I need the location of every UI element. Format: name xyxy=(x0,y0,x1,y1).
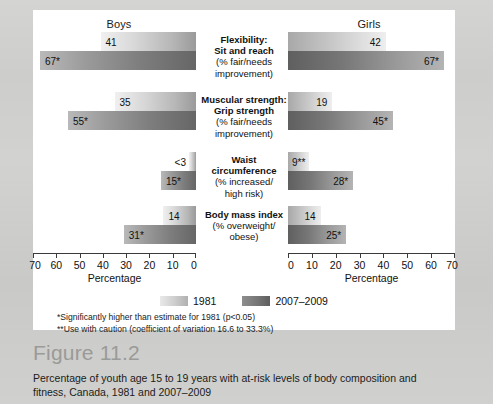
group-sub-line2: obese) xyxy=(201,231,287,242)
group-sub-line2: high risk) xyxy=(201,188,287,199)
column-header-girls: Girls xyxy=(283,18,455,30)
axis-tick-label: 40 xyxy=(97,259,109,271)
bars-boys-flexibility: 41 67* xyxy=(33,32,196,84)
axis-boys: 70 60 50 40 30 20 10 0 Percentage xyxy=(33,253,196,279)
bar-value: 42 xyxy=(370,36,381,47)
bar-girls-2007: 28* xyxy=(288,171,353,190)
group-title-line2: Sit and reach xyxy=(201,45,287,56)
axis-tick xyxy=(80,253,81,258)
bar-value: 28* xyxy=(333,175,348,186)
axis-tick xyxy=(407,253,408,258)
axis-tick-label: 0 xyxy=(288,259,294,271)
bar-girls-1981: 42 xyxy=(288,32,386,51)
figure-number: Figure 11.2 xyxy=(33,341,463,365)
axis-tick-label: 10 xyxy=(167,259,179,271)
axis-tick-label: 30 xyxy=(354,259,366,271)
bars-girls-grip: 19 45* xyxy=(288,92,455,144)
bar-girls-2007: 67* xyxy=(288,51,444,70)
group-sub-line1: (% fair/needs xyxy=(201,56,287,67)
group-sub-line2: improvement) xyxy=(201,128,287,139)
bar-girls-2007: 25* xyxy=(288,225,346,244)
bar-value: 67* xyxy=(45,55,60,66)
footnote-significance: *Significantly higher than estimate for … xyxy=(57,312,447,324)
bar-value: 14 xyxy=(304,210,315,221)
bars-boys-grip: 35 55* xyxy=(33,92,196,144)
bar-boys-1981: <3 xyxy=(189,152,196,171)
bar-value: 35 xyxy=(120,96,131,107)
axis-tick-label: 50 xyxy=(74,259,86,271)
bar-value: 55* xyxy=(73,115,88,126)
bar-girls-1981: 14 xyxy=(288,206,321,225)
axis-tick-label: 10 xyxy=(306,259,318,271)
axis-title-boys: Percentage xyxy=(33,272,196,284)
legend-label-1981: 1981 xyxy=(193,295,216,307)
axis-tick xyxy=(103,253,104,258)
legend-swatch-1981-icon xyxy=(160,296,188,306)
footnote-caution: **Use with caution (coefficient of varia… xyxy=(57,324,447,336)
group-sub-line2: improvement) xyxy=(201,68,287,79)
group-sub-line1: (% fair/needs xyxy=(201,116,287,127)
column-header-boys: Boys xyxy=(33,18,205,30)
axis-tick xyxy=(383,253,384,258)
bar-boys-1981: 14 xyxy=(163,206,196,225)
axis-tick xyxy=(56,253,57,258)
bar-value: 41 xyxy=(106,36,117,47)
bar-boys-2007: 15* xyxy=(161,171,196,190)
axis-tick-label: 40 xyxy=(378,259,390,271)
axis-cap-start xyxy=(33,253,34,258)
bars-girls-bmi: 14 25* xyxy=(288,206,455,250)
group-label-muscular-strength: Muscular strength: Grip strength (% fair… xyxy=(201,94,287,139)
axis-tick xyxy=(431,253,432,258)
bars-girls-flexibility: 42 67* xyxy=(288,32,455,84)
bar-value: 19 xyxy=(316,96,327,107)
group-sub-line1: (% overweight/ xyxy=(201,220,287,231)
bar-value: 9** xyxy=(292,156,305,167)
group-title-line1: Muscular strength: xyxy=(201,94,287,105)
bar-boys-1981: 35 xyxy=(115,92,197,111)
group-body-mass-index: 14 31* Body mass index (% overweight/ ob… xyxy=(33,206,455,250)
bar-value: 15* xyxy=(166,175,181,186)
bar-value: 31* xyxy=(129,229,144,240)
axis-line xyxy=(33,253,196,254)
group-title-line2: Grip strength xyxy=(201,105,287,116)
axis-tick-label: 50 xyxy=(401,259,413,271)
axis-cap-end xyxy=(454,253,455,258)
axis-tick-label: 70 xyxy=(29,259,41,271)
bars-boys-bmi: 14 31* xyxy=(33,206,196,250)
axis-cap-start xyxy=(288,253,289,258)
axis-tick-label: 30 xyxy=(120,259,132,271)
bar-boys-2007: 55* xyxy=(68,111,196,130)
group-title-line2: circumference xyxy=(201,165,287,176)
footnotes: *Significantly higher than estimate for … xyxy=(57,312,447,335)
axis-tick xyxy=(336,253,337,258)
group-label-waist-circumference: Waist circumference (% increased/ high r… xyxy=(201,154,287,199)
group-muscular-strength: 35 55* Muscular strength: Grip strength … xyxy=(33,92,455,144)
group-title-line1: Flexibility: xyxy=(201,34,287,45)
bar-boys-2007: 31* xyxy=(124,225,196,244)
chart-area: Boys Girls 41 67* Flexibility: Sit and r… xyxy=(33,10,455,330)
group-title-line1: Body mass index xyxy=(201,209,287,220)
axis-tick-label: 60 xyxy=(425,259,437,271)
group-label-flexibility: Flexibility: Sit and reach (% fair/needs… xyxy=(201,34,287,79)
figure-caption: Figure 11.2 Percentage of youth age 15 t… xyxy=(33,341,463,399)
legend-swatch-2007-2009-icon xyxy=(242,296,270,306)
axis-cap-end xyxy=(195,253,196,258)
axis-tick-label: 70 xyxy=(446,259,458,271)
bars-girls-waist: 9** 28* xyxy=(288,152,455,204)
axis-tick-label: 60 xyxy=(50,259,62,271)
figure-description: Percentage of youth age 15 to 19 years w… xyxy=(33,372,437,399)
axis-tick-label: 0 xyxy=(191,259,197,271)
bar-girls-1981: 9** xyxy=(288,152,309,171)
bar-value: 67* xyxy=(424,55,439,66)
bar-value: 14 xyxy=(168,210,179,221)
axis-tick xyxy=(173,253,174,258)
group-waist-circumference: <3 15* Waist circumference (% increased/… xyxy=(33,152,455,204)
axis-tick xyxy=(312,253,313,258)
axis-girls: 0 10 20 30 40 50 60 70 Percentage xyxy=(288,253,455,279)
axis-tick xyxy=(360,253,361,258)
axis-title-girls: Percentage xyxy=(288,272,455,284)
bars-boys-waist: <3 15* xyxy=(33,152,196,204)
bar-boys-1981: 41 xyxy=(101,32,197,51)
axis-line xyxy=(288,253,455,254)
bar-boys-2007: 67* xyxy=(40,51,196,70)
